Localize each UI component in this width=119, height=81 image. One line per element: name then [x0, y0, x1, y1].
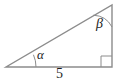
alpha-angle-arc	[33, 55, 36, 67]
alpha-angle-label: α	[37, 48, 44, 61]
base-length-label: 5	[0, 67, 119, 81]
right-angle-marker	[101, 56, 112, 67]
triangle-outline	[6, 5, 112, 67]
beta-angle-label: β	[96, 17, 103, 31]
triangle-figure: α β 5	[0, 0, 119, 81]
